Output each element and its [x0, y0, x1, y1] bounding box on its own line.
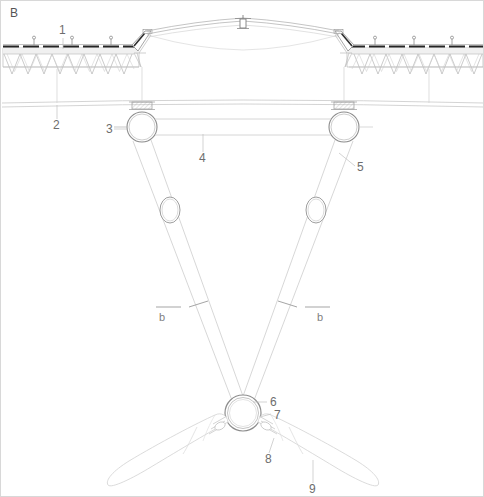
panel-letter: B	[10, 6, 18, 20]
callout-label-4: 4	[199, 151, 206, 165]
callout-label-8: 8	[265, 452, 272, 466]
callout-label-9: 9	[309, 482, 316, 496]
horizontal-cable-pair	[2, 100, 484, 107]
callout-label-5: 5	[357, 160, 364, 174]
section-label-b-right: b	[317, 311, 323, 323]
section-label-b-left: b	[159, 311, 165, 323]
blade-right	[258, 414, 379, 486]
blade-left	[107, 414, 228, 486]
central-hub	[225, 395, 261, 431]
pulley-assembly-left	[127, 102, 157, 142]
bearing-block-right	[334, 102, 354, 109]
roof-deck-band-right	[347, 48, 483, 54]
technical-figure: B 1 2 3 4 5 6 7 8 9 b b	[1, 1, 484, 497]
pulley-left	[127, 112, 157, 142]
callout-label-6: 6	[270, 395, 277, 409]
bearing-block-left	[132, 102, 152, 109]
ring-left	[160, 197, 180, 223]
section-mark-left	[156, 301, 208, 307]
hanger-posts	[57, 67, 429, 103]
callout-label-7: 7	[274, 408, 281, 422]
pulley-assembly-right	[329, 102, 359, 142]
leader-5	[339, 153, 355, 166]
roof-assembly	[3, 15, 483, 74]
suspension-arm-left	[133, 140, 244, 403]
roof-pin-fittings-right	[374, 36, 454, 45]
section-mark-right	[278, 301, 330, 307]
pulley-right	[329, 112, 359, 142]
callout-label-3: 3	[106, 122, 113, 136]
leader-8	[269, 438, 274, 453]
corrugated-roof-panel-right	[334, 30, 483, 75]
figure-page: B 1 2 3 4 5 6 7 8 9 b b	[0, 0, 484, 497]
suspension-arm-right	[242, 140, 353, 403]
roof-pin-fittings-left	[33, 36, 113, 45]
roof-deck-band-left	[3, 48, 139, 54]
ring-right	[306, 197, 326, 223]
corrugated-roof-panel-left	[3, 30, 152, 75]
callout-label-1: 1	[59, 23, 66, 37]
callout-label-2: 2	[53, 118, 60, 132]
